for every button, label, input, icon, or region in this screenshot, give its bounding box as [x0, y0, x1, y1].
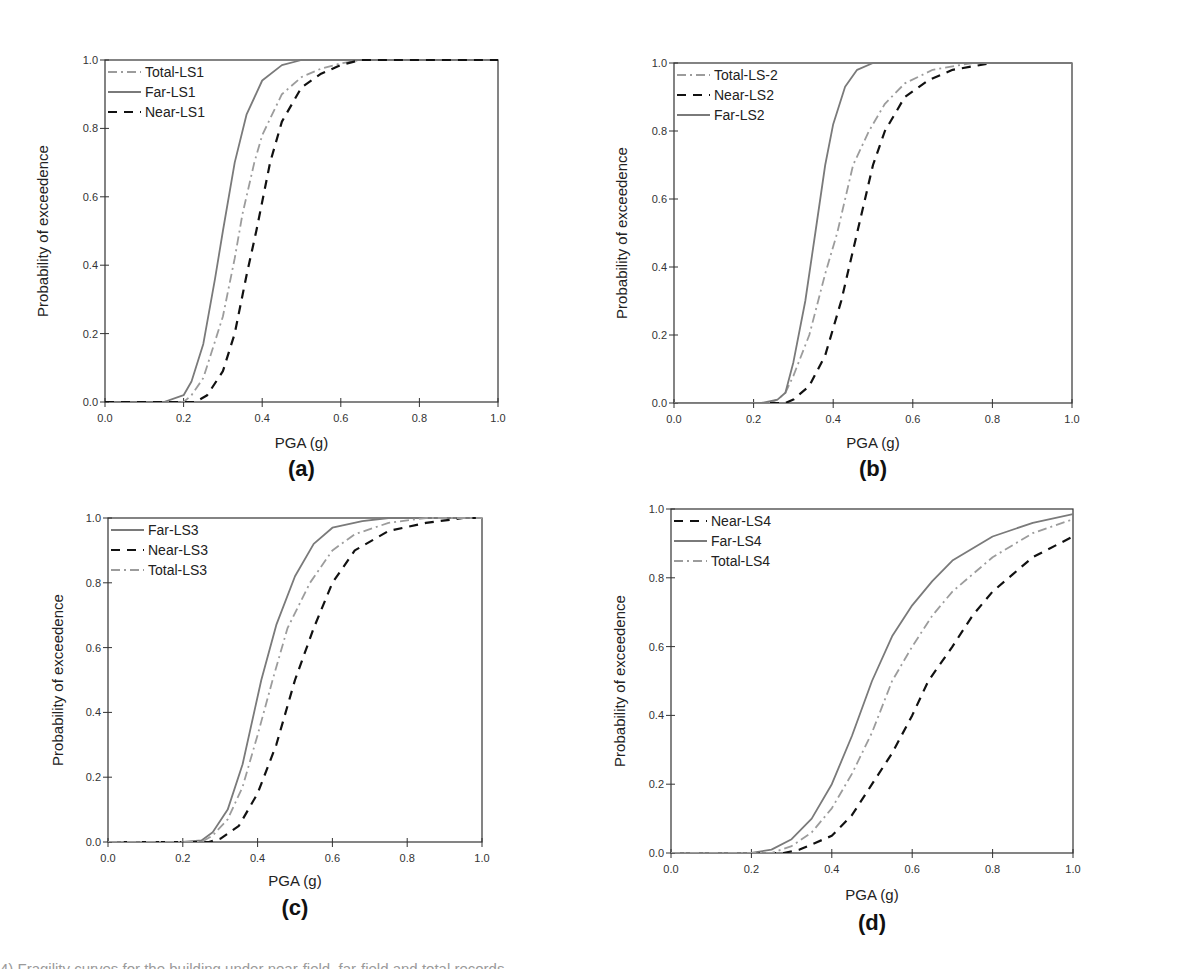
x-tick-label: 0.2 — [175, 852, 190, 864]
x-tick-label: 0.2 — [176, 412, 191, 424]
y-tick-label: 0.8 — [83, 122, 98, 134]
y-tick-label: 0.4 — [649, 709, 664, 721]
y-axis-label: Probability of exceedence — [49, 594, 66, 766]
x-tick-label: 0.8 — [412, 412, 427, 424]
chart-panel-d: 0.00.20.40.60.81.00.00.20.40.60.81.0PGA … — [611, 503, 1081, 935]
y-tick-label: 0.8 — [649, 572, 664, 584]
x-tick-label: 0.2 — [744, 863, 759, 875]
y-tick-label: 0.6 — [649, 641, 664, 653]
x-axis-label: PGA (g) — [846, 434, 899, 451]
x-tick-label: 0.6 — [325, 852, 340, 864]
x-tick-label: 0.6 — [905, 413, 920, 425]
legend-label: Total-LS-2 — [714, 67, 778, 83]
y-tick-label: 0.0 — [86, 836, 101, 848]
x-tick-label: 0.6 — [905, 863, 920, 875]
chart-panel-a: 0.00.20.40.60.81.00.00.20.40.60.81.0PGA … — [34, 54, 506, 481]
y-tick-label: 0.6 — [86, 642, 101, 654]
legend: Total-LS-2Near-LS2Far-LS2 — [677, 67, 778, 123]
y-tick-label: 0.6 — [652, 193, 667, 205]
x-tick-label: 1.0 — [1065, 863, 1080, 875]
legend-label: Far-LS3 — [148, 522, 199, 538]
y-tick-label: 0.0 — [652, 397, 667, 409]
legend-label: Total-LS3 — [148, 562, 207, 578]
legend-label: Near-LS4 — [711, 513, 771, 529]
x-tick-label: 0.8 — [985, 863, 1000, 875]
x-tick-label: 0.8 — [985, 413, 1000, 425]
legend-label: Total-LS4 — [711, 553, 770, 569]
legend-label: Near-LS2 — [714, 87, 774, 103]
legend-label: Near-LS3 — [148, 542, 208, 558]
x-tick-label: 0.0 — [100, 852, 115, 864]
x-tick-label: 0.0 — [663, 863, 678, 875]
y-tick-label: 0.2 — [86, 771, 101, 783]
x-tick-label: 0.4 — [826, 413, 841, 425]
x-tick-label: 0.4 — [255, 412, 270, 424]
series-total-ls4 — [671, 519, 1073, 853]
y-tick-label: 0.8 — [86, 577, 101, 589]
y-tick-label: 0.4 — [652, 261, 667, 273]
series-near-ls4 — [671, 537, 1073, 854]
figure-caption: 4) Fragility curves for the building und… — [0, 958, 1177, 969]
panel-label: (a) — [288, 456, 315, 481]
panel-label: (b) — [859, 456, 887, 481]
x-axis-label: PGA (g) — [268, 872, 321, 889]
legend-label: Near-LS1 — [145, 104, 205, 120]
y-tick-label: 1.0 — [86, 512, 101, 524]
y-tick-label: 0.0 — [83, 396, 98, 408]
y-tick-label: 0.2 — [652, 329, 667, 341]
legend: Near-LS4Far-LS4Total-LS4 — [674, 513, 771, 569]
x-tick-label: 0.8 — [400, 852, 415, 864]
y-tick-label: 0.6 — [83, 191, 98, 203]
chart-panel-c: 0.00.20.40.60.81.00.00.20.40.60.81.0PGA … — [49, 512, 490, 920]
x-tick-label: 0.2 — [746, 413, 761, 425]
y-tick-label: 0.2 — [83, 328, 98, 340]
chart-panel-b: 0.00.20.40.60.81.00.00.20.40.60.81.0PGA … — [613, 57, 1080, 481]
x-tick-label: 0.6 — [333, 412, 348, 424]
y-axis-label: Probability of exceedence — [613, 147, 630, 319]
y-tick-label: 0.4 — [83, 259, 98, 271]
y-tick-label: 1.0 — [83, 54, 98, 66]
fragility-curves-figure: 0.00.20.40.60.81.00.00.20.40.60.81.0PGA … — [0, 0, 1177, 969]
y-tick-label: 1.0 — [652, 57, 667, 69]
y-tick-label: 0.0 — [649, 847, 664, 859]
x-tick-label: 1.0 — [490, 412, 505, 424]
panel-label: (c) — [282, 895, 309, 920]
y-tick-label: 0.4 — [86, 706, 101, 718]
y-axis-label: Probability of exceedence — [34, 145, 51, 317]
y-tick-label: 0.8 — [652, 125, 667, 137]
legend: Total-LS1Far-LS1Near-LS1 — [108, 64, 205, 120]
x-tick-label: 0.0 — [666, 413, 681, 425]
x-tick-label: 1.0 — [474, 852, 489, 864]
x-axis-label: PGA (g) — [845, 886, 898, 903]
x-tick-label: 0.4 — [824, 863, 839, 875]
panel-label: (d) — [858, 910, 886, 935]
legend-label: Total-LS1 — [145, 64, 204, 80]
legend: Far-LS3Near-LS3Total-LS3 — [111, 522, 208, 578]
x-tick-label: 0.4 — [250, 852, 265, 864]
y-axis-label: Probability of exceedence — [611, 595, 628, 767]
x-tick-label: 0.0 — [97, 412, 112, 424]
legend-label: Far-LS1 — [145, 84, 196, 100]
x-axis-label: PGA (g) — [275, 434, 328, 451]
x-tick-label: 1.0 — [1064, 413, 1079, 425]
y-tick-label: 1.0 — [649, 503, 664, 515]
legend-label: Far-LS4 — [711, 533, 762, 549]
legend-label: Far-LS2 — [714, 107, 765, 123]
y-tick-label: 0.2 — [649, 778, 664, 790]
